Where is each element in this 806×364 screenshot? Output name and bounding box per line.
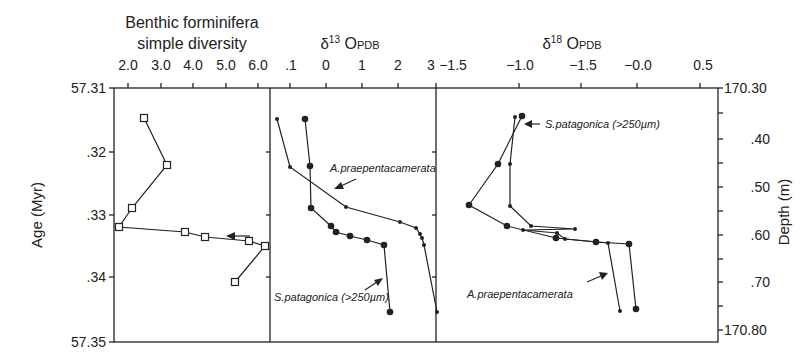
tick-label: 57.35 bbox=[71, 334, 106, 350]
series-mid-apraepentacamerata bbox=[275, 117, 439, 314]
series-right-spatagonica bbox=[466, 113, 640, 313]
small-dot-markers bbox=[508, 115, 622, 313]
tick-label: 0.5 bbox=[693, 57, 713, 73]
superscript: 18 bbox=[551, 34, 563, 45]
tick-label: .33 bbox=[87, 207, 107, 223]
depth-tick-labels: 170.30 .40 .50 .60 .70 170.80 bbox=[724, 80, 770, 338]
age-tick-labels: 57.31 .32 .33 .34 57.35 bbox=[71, 80, 106, 350]
filled-dot-markers bbox=[466, 113, 640, 313]
delta-symbol: δ bbox=[543, 35, 551, 52]
title-main: O bbox=[340, 35, 357, 52]
annotation-mid-spatagonica: S.patagonica (>250µm) bbox=[274, 291, 389, 303]
delta-symbol: δ bbox=[321, 35, 329, 52]
tick-label: −1.5 bbox=[439, 57, 467, 73]
superscript: 13 bbox=[329, 34, 341, 45]
tick-label: 5.0 bbox=[216, 57, 236, 73]
tick-label: 1 bbox=[358, 57, 366, 73]
small-dot-markers bbox=[275, 117, 439, 314]
right-panel-title: δ18 OPDB bbox=[543, 34, 602, 52]
left-y-tick-marks bbox=[109, 88, 436, 342]
top-tick-marks bbox=[128, 83, 700, 88]
arrow-icon bbox=[365, 278, 383, 290]
arrow-icon bbox=[334, 179, 356, 189]
tick-label: −1.5 bbox=[569, 57, 597, 73]
right-x-tick-labels: −1.5 −1.0 −1.5 −0.0 0.5 bbox=[439, 57, 713, 73]
stratigraphic-chart: Benthic forminifera simple diversity δ13… bbox=[0, 0, 806, 364]
series-benthic-diversity bbox=[116, 115, 269, 286]
tick-label: .32 bbox=[87, 144, 107, 160]
filled-dot-markers bbox=[302, 116, 394, 316]
subscript: PDB bbox=[357, 39, 380, 51]
tick-label: 3 bbox=[427, 57, 435, 73]
tick-label: .50 bbox=[751, 179, 771, 195]
tick-label: 2.0 bbox=[118, 57, 138, 73]
tick-label: .70 bbox=[751, 274, 771, 290]
tick-label: 170.80 bbox=[724, 322, 767, 338]
series-mid-spatagonica bbox=[302, 116, 394, 316]
tick-label: −0.0 bbox=[624, 57, 652, 73]
right-y-tick-marks bbox=[718, 88, 723, 330]
mid-x-tick-labels: .1 0 1 2 3 bbox=[285, 57, 435, 73]
annotation-right-apraepentacamerata: A.praepentacamerata bbox=[466, 288, 573, 300]
arrow-icon bbox=[587, 272, 608, 282]
subscript: PDB bbox=[579, 39, 602, 51]
series-right-apraepentacamerata bbox=[508, 115, 622, 313]
tick-label: 6.0 bbox=[248, 57, 268, 73]
left-panel-title-line1: Benthic forminifera bbox=[125, 14, 258, 31]
tick-label: .40 bbox=[751, 131, 771, 147]
tick-label: −1.0 bbox=[506, 57, 534, 73]
tick-label: 170.30 bbox=[724, 80, 767, 96]
tick-label: .1 bbox=[285, 57, 297, 73]
tick-label: 3.0 bbox=[151, 57, 171, 73]
tick-label: .60 bbox=[751, 227, 771, 243]
annotation-mid-apraepentacamerata: A.praepentacamerata bbox=[329, 162, 436, 174]
left-panel-title-line2: simple diversity bbox=[137, 35, 246, 52]
age-axis-label: Age (Myr) bbox=[28, 182, 45, 248]
tick-label: 2 bbox=[394, 57, 402, 73]
title-main: O bbox=[562, 35, 579, 52]
mid-panel-title: δ13 OPDB bbox=[321, 34, 380, 52]
tick-label: .34 bbox=[87, 269, 107, 285]
annotation-right-spatagonica: S.patagonica (>250µm) bbox=[545, 118, 660, 130]
depth-axis-label: Depth (m) bbox=[775, 179, 792, 246]
tick-label: 0 bbox=[322, 57, 330, 73]
tick-label: 57.31 bbox=[71, 80, 106, 96]
arrow-icon bbox=[524, 120, 540, 128]
left-x-tick-labels: 2.0 3.0 4.0 5.0 6.0 bbox=[118, 57, 268, 73]
tick-label: 4.0 bbox=[183, 57, 203, 73]
